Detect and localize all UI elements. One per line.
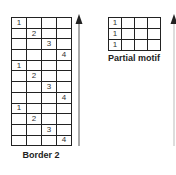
grid-cell <box>12 71 27 82</box>
border-2-grid-body: 123412341234 <box>12 18 72 146</box>
grid-cell <box>57 82 72 93</box>
grid-row: 3 <box>12 82 72 93</box>
grid-cell: 1 <box>12 18 27 29</box>
grid-cell <box>27 39 42 50</box>
grid-cell <box>57 28 72 39</box>
grid-row: 1 <box>12 103 72 114</box>
grid-cell <box>42 135 57 146</box>
grid-cell <box>27 18 42 29</box>
grid-row: 2 <box>12 114 72 125</box>
partial-motif-grid: 111 <box>108 17 161 51</box>
grid-cell: 1 <box>109 29 122 40</box>
grid-cell <box>12 39 27 50</box>
grid-cell <box>122 29 135 40</box>
grid-cell: 1 <box>109 18 122 29</box>
grid-cell <box>135 18 148 29</box>
grid-cell <box>148 40 161 51</box>
grid-cell <box>12 50 27 61</box>
grid-cell <box>42 114 57 125</box>
grid-row: 1 <box>109 18 161 29</box>
grid-cell: 2 <box>27 71 42 82</box>
grid-row: 1 <box>12 18 72 29</box>
grid-row: 3 <box>12 39 72 50</box>
grid-cell: 1 <box>12 103 27 114</box>
grid-cell <box>27 124 42 135</box>
grid-cell: 3 <box>42 82 57 93</box>
grid-cell: 2 <box>27 28 42 39</box>
grid-cell <box>122 40 135 51</box>
grid-row: 4 <box>12 92 72 103</box>
grid-cell <box>42 103 57 114</box>
grid-cell <box>57 103 72 114</box>
grid-cell <box>57 124 72 135</box>
grid-row: 1 <box>12 60 72 71</box>
grid-row: 1 <box>109 40 161 51</box>
grid-cell <box>42 28 57 39</box>
grid-cell <box>148 18 161 29</box>
grid-cell <box>12 28 27 39</box>
grid-cell <box>27 60 42 71</box>
grid-cell <box>57 114 72 125</box>
grid-cell: 4 <box>57 92 72 103</box>
grid-row: 4 <box>12 135 72 146</box>
grid-cell <box>12 135 27 146</box>
grid-cell <box>122 18 135 29</box>
grid-cell: 4 <box>57 135 72 146</box>
partial-motif-label: Partial motif <box>104 53 164 63</box>
grid-row: 2 <box>12 71 72 82</box>
grid-cell <box>135 29 148 40</box>
grid-cell <box>27 82 42 93</box>
grid-cell <box>57 71 72 82</box>
grid-cell <box>12 114 27 125</box>
grid-cell <box>42 71 57 82</box>
grid-cell: 3 <box>42 124 57 135</box>
grid-cell <box>12 82 27 93</box>
up-arrow-icon <box>75 14 83 148</box>
grid-cell <box>57 18 72 29</box>
grid-cell <box>42 50 57 61</box>
grid-cell: 1 <box>12 60 27 71</box>
grid-cell <box>42 92 57 103</box>
up-arrow-icon <box>170 14 176 148</box>
grid-cell: 1 <box>109 40 122 51</box>
grid-cell: 4 <box>57 50 72 61</box>
grid-cell <box>42 18 57 29</box>
grid-cell: 3 <box>42 39 57 50</box>
grid-row: 3 <box>12 124 72 135</box>
grid-cell <box>27 103 42 114</box>
grid-row: 1 <box>109 29 161 40</box>
grid-cell <box>27 50 42 61</box>
grid-row: 4 <box>12 50 72 61</box>
border-2-grid: 123412341234 <box>11 17 72 146</box>
border-2-label: Border 2 <box>11 150 71 160</box>
grid-cell <box>42 60 57 71</box>
grid-row: 2 <box>12 28 72 39</box>
partial-motif-grid-body: 111 <box>109 18 161 51</box>
grid-cell <box>27 92 42 103</box>
grid-cell <box>57 60 72 71</box>
grid-cell <box>135 40 148 51</box>
grid-cell <box>12 92 27 103</box>
grid-cell <box>57 39 72 50</box>
grid-cell <box>12 124 27 135</box>
grid-cell <box>27 135 42 146</box>
grid-cell: 2 <box>27 114 42 125</box>
grid-cell <box>148 29 161 40</box>
